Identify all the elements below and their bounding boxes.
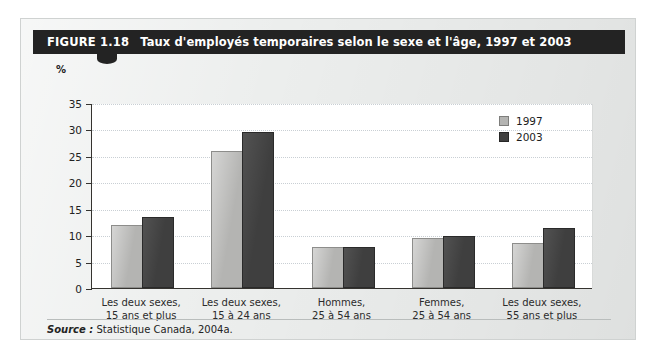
source-text: Statistique Canada, 2004a. xyxy=(97,324,233,335)
y-axis-tick xyxy=(86,263,92,264)
y-axis-tick-label: 25 xyxy=(69,151,82,163)
bar-group xyxy=(312,104,374,288)
bar-1997 xyxy=(111,225,143,288)
source-note: Source : Statistique Canada, 2004a. xyxy=(47,324,233,335)
source-divider xyxy=(47,319,611,320)
figure-number-label: FIGURE 1.18 xyxy=(47,35,129,49)
bar-2003 xyxy=(343,247,375,288)
y-axis-tick xyxy=(86,157,92,158)
y-axis-tick xyxy=(86,130,92,131)
y-axis-tick-label: 20 xyxy=(69,177,82,189)
bar-1997 xyxy=(312,247,344,288)
y-axis-tick xyxy=(86,104,92,105)
legend-item-1997: 1997 xyxy=(499,114,543,128)
y-axis-unit-label: % xyxy=(56,64,66,75)
y-axis-tick-label: 15 xyxy=(69,204,82,216)
title-bar-notch xyxy=(97,54,117,64)
bar-2003 xyxy=(543,228,575,288)
bar-group xyxy=(211,104,273,288)
y-axis-tick-label: 30 xyxy=(69,124,82,136)
legend-label-2003: 2003 xyxy=(516,131,543,143)
bar-2003 xyxy=(443,236,475,288)
bar-2003 xyxy=(142,217,174,288)
bar-2003 xyxy=(242,132,274,288)
bar-group xyxy=(412,104,474,288)
y-axis-tick xyxy=(86,210,92,211)
figure-card: FIGURE 1.18 Taux d'employés temporaires … xyxy=(20,18,636,340)
legend-swatch-2003 xyxy=(499,132,509,142)
legend-item-2003: 2003 xyxy=(499,130,543,144)
y-axis-tick xyxy=(86,183,92,184)
bar-group xyxy=(111,104,173,288)
chart-area: % 05101520253035 1997 2003 Les deux sexe… xyxy=(33,64,625,296)
figure-title: Taux d'employés temporaires selon le sex… xyxy=(140,35,572,49)
source-word: Source : xyxy=(47,324,93,335)
y-axis-tick-label: 10 xyxy=(69,230,82,242)
bar-1997 xyxy=(211,151,243,288)
figure-title-bar: FIGURE 1.18 Taux d'employés temporaires … xyxy=(33,30,625,54)
legend-swatch-1997 xyxy=(499,116,509,126)
bar-1997 xyxy=(412,238,444,288)
y-axis-tick xyxy=(86,236,92,237)
bar-1997 xyxy=(512,243,544,288)
y-axis-tick xyxy=(86,289,92,290)
y-axis-tick-label: 5 xyxy=(75,257,82,269)
chart-legend: 1997 2003 xyxy=(499,114,543,146)
y-axis-tick-label: 0 xyxy=(75,283,82,295)
legend-label-1997: 1997 xyxy=(516,115,543,127)
y-axis-tick-label: 35 xyxy=(69,98,82,110)
